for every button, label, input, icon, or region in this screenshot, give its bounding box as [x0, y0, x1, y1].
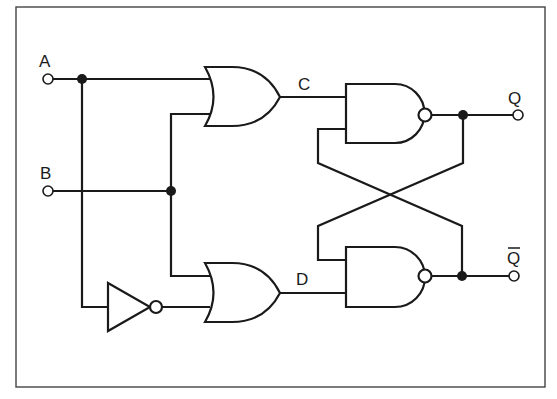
junction-a-icon [77, 74, 87, 84]
terminal-b-icon [43, 186, 53, 196]
label-b: B [40, 164, 51, 183]
label-qbar-text: Q [507, 249, 520, 268]
terminal-qbar-icon [509, 271, 519, 281]
diagram-frame [16, 7, 545, 387]
nand-top-bubble-icon [419, 109, 432, 122]
terminal-q-icon [513, 110, 523, 120]
label-a: A [39, 52, 51, 71]
not-gate [108, 283, 150, 331]
nand-gate-bottom [346, 247, 425, 307]
nand-bottom-bubble-icon [419, 270, 432, 283]
junction-b-icon [166, 186, 176, 196]
junction-qbar-icon [457, 271, 467, 281]
or-gate-bottom [205, 263, 280, 322]
logic-circuit-diagram: A B C D Q Q [0, 0, 557, 399]
label-qbar: Q [507, 248, 520, 268]
wires [52, 79, 514, 307]
label-c: C [298, 75, 310, 94]
nand-gate-top [346, 84, 424, 143]
not-bubble-icon [150, 301, 162, 313]
wire-a-to-not [82, 79, 108, 307]
junction-q-icon [458, 110, 468, 120]
terminal-a-icon [43, 74, 53, 84]
label-d: D [296, 270, 308, 289]
or-gate-top [205, 67, 280, 126]
label-q: Q [508, 89, 521, 108]
